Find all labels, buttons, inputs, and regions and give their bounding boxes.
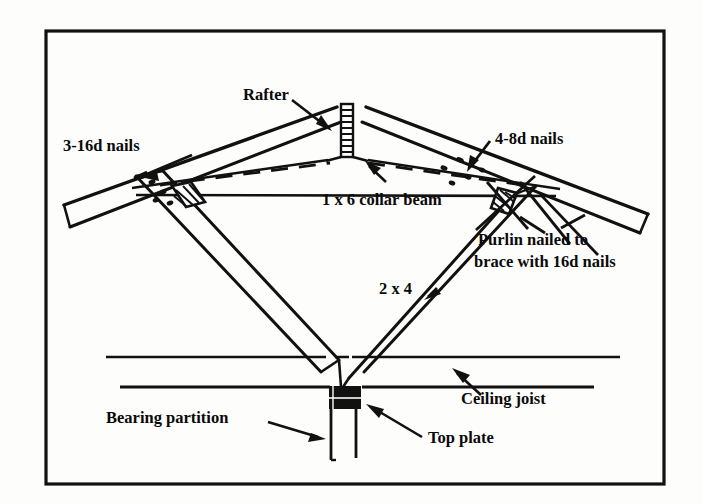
roof-framing-diagram: Rafter 3-16d nails 4-8d nails 1 x 6 coll… <box>0 0 703 504</box>
left-brace <box>136 171 339 372</box>
label-purlin-line2: brace with 16d nails <box>474 252 616 271</box>
brace-crotch <box>321 360 349 387</box>
right-rafter <box>362 107 648 233</box>
top-plate-leader-arrow-icon <box>366 404 422 437</box>
top-plate-block-icon <box>329 386 361 409</box>
figure-page: Rafter 3-16d nails 4-8d nails 1 x 6 coll… <box>0 0 703 504</box>
label-top-plate: Top plate <box>428 428 494 447</box>
purlin-block-left-icon <box>172 182 205 207</box>
label-purlin-line1: Purlin nailed to <box>478 230 588 249</box>
rafter-leader-arrow-icon <box>292 100 332 131</box>
label-brace-size: 2 x 4 <box>379 279 412 298</box>
label-bearing-partition: Bearing partition <box>106 408 228 427</box>
label-nails-right: 4-8d nails <box>495 129 564 148</box>
label-rafter: Rafter <box>243 85 289 104</box>
label-nails-left: 3-16d nails <box>63 136 140 155</box>
label-collar-beam: 1 x 6 collar beam <box>322 190 442 209</box>
bearing-partition-stud <box>331 409 356 460</box>
label-ceiling-joist: Ceiling joist <box>461 389 546 408</box>
bearing-partition-leader-arrow-icon <box>268 422 326 442</box>
ridge-board-icon <box>326 104 368 161</box>
rafter-lower-face-right <box>368 160 560 189</box>
